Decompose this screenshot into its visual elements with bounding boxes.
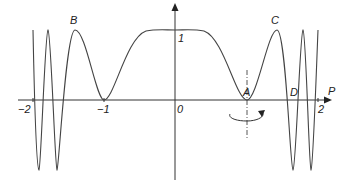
point-label-d: D [290,87,298,98]
point-label-b: B [70,15,77,26]
x-axis-arrow-icon [324,97,332,104]
x-tick-label-neg2: −2 [18,104,31,115]
y-tick-label-1: 1 [178,33,184,44]
y-axis-arrow-icon [172,3,179,11]
potential-diagram [0,0,351,187]
point-label-a: A [243,87,250,98]
x-axis-label: P [328,86,335,97]
rotation-arrow-icon [230,112,263,121]
x-tick-label-neg1: −1 [97,104,110,115]
rotation-arrowhead-icon [258,110,265,117]
x-tick-label-2: 2 [318,104,324,115]
point-label-c: C [271,15,279,26]
x-tick-label-0: 0 [177,104,183,115]
